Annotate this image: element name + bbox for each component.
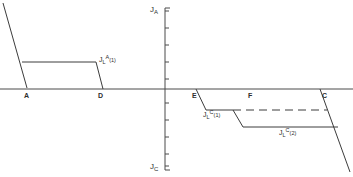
- point-label-a: A: [24, 92, 29, 99]
- point-label-e: E: [192, 92, 197, 99]
- axis-label-jc: JC: [150, 163, 158, 172]
- flux-label-jl-a-1: JLA(1): [99, 55, 116, 65]
- figure-svg: [0, 0, 353, 177]
- anodic-branch-curve: [3, 3, 27, 88]
- point-label-c: C: [322, 92, 327, 99]
- figure-container: JA JC A D E F C JLA(1) JLC(1) JLC(2): [0, 0, 353, 177]
- flux-label-jl-c-2-paren: (2): [290, 130, 297, 136]
- point-label-f: F: [248, 92, 252, 99]
- flux-label-jl-a-1-paren: (1): [109, 57, 116, 63]
- axis-label-ja-sub: A: [154, 9, 158, 15]
- flux-label-jl-c-2: JLC(2): [279, 128, 296, 138]
- point-label-d: D: [98, 92, 103, 99]
- axis-label-ja: JA: [150, 6, 158, 15]
- anodic-limiting-plateau-curve: [22, 62, 103, 89]
- flux-label-jl-c-1: JLC(1): [203, 110, 220, 120]
- cathodic-limiting-plateau-curve: [196, 89, 338, 127]
- flux-label-jl-c-1-paren: (1): [214, 112, 221, 118]
- cathodic-branch-curve: [320, 89, 350, 172]
- axis-label-jc-sub: C: [154, 166, 158, 172]
